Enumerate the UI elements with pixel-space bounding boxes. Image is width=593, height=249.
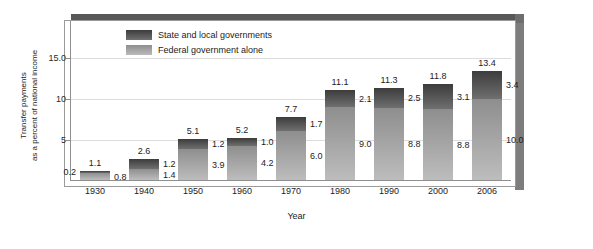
x-tick-label-1970: 1970 [268, 186, 314, 196]
y-tick-label-10: 10 [56, 95, 66, 104]
bar-federal-label-2006: 10.0 [506, 136, 524, 145]
bar-state-label-1930: 0.2 [56, 168, 76, 177]
bar-segment-federal-1990 [374, 108, 404, 180]
bar-state-label-1950: 1.2 [212, 140, 225, 149]
legend-item-federal: Federal government alone [126, 43, 272, 56]
x-tick-label-2000: 2000 [415, 186, 461, 196]
bar-2000 [423, 84, 453, 180]
bar-federal-label-1940: 1.4 [163, 171, 176, 180]
x-axis-title: Year [0, 211, 593, 221]
bar-federal-label-1960: 4.2 [261, 159, 274, 168]
y-tick-mark-5 [66, 140, 70, 141]
bar-segment-federal-1970 [276, 131, 306, 180]
chart-figure: 15.0 10 5 Transfer payments as a percent… [0, 0, 593, 249]
y-tick-mark-10 [66, 99, 70, 100]
bar-total-label-1980: 11.1 [325, 78, 355, 87]
bar-state-label-2000: 3.1 [457, 93, 470, 102]
x-tick-label-1930: 1930 [72, 186, 118, 196]
bar-segment-federal-2006 [472, 99, 502, 180]
y-tick-label-5: 5 [61, 136, 66, 145]
bar-1990 [374, 88, 404, 180]
bar-segment-state-1960 [227, 138, 257, 146]
bar-1960 [227, 138, 257, 180]
bar-1980 [325, 90, 355, 180]
x-tick-label-1950: 1950 [170, 186, 216, 196]
bar-state-label-1960: 1.0 [261, 138, 274, 147]
y-tick-label-15: 15.0 [48, 54, 66, 63]
bar-segment-state-1940 [129, 159, 159, 169]
y-axis-title-line2: as a percent of national income [29, 31, 40, 181]
bar-1940 [129, 159, 159, 180]
legend-swatch-federal-icon [126, 45, 152, 55]
bar-1950 [178, 139, 208, 180]
x-tick-label-1940: 1940 [121, 186, 167, 196]
y-axis-line [70, 21, 71, 181]
bar-segment-federal-1930 [80, 173, 110, 180]
bar-total-label-2006: 13.4 [472, 59, 502, 68]
bar-federal-label-2000: 8.8 [457, 141, 470, 150]
y-axis-title-line1: Transfer payments [18, 31, 29, 181]
bar-2006 [472, 71, 502, 180]
legend-item-state-and-local: State and local governments [126, 28, 272, 41]
frame-shadow-right-inner [515, 23, 524, 190]
bar-state-label-1940: 1.2 [163, 160, 176, 169]
bar-state-label-1980: 2.1 [359, 95, 372, 104]
bar-total-label-1970: 7.7 [276, 105, 306, 114]
bar-federal-label-1930: 0.8 [114, 173, 127, 182]
chart-legend: State and local governments Federal gove… [126, 28, 272, 58]
bar-1930 [80, 171, 110, 180]
x-axis-line [70, 180, 511, 181]
bar-state-label-2006: 3.4 [506, 81, 519, 90]
bar-segment-state-1970 [276, 117, 306, 131]
bar-segment-state-2006 [472, 71, 502, 99]
bar-segment-state-2000 [423, 84, 453, 109]
bar-segment-federal-1960 [227, 146, 257, 180]
bar-segment-state-1950 [178, 139, 208, 149]
y-tick-mark-15 [66, 58, 70, 59]
x-tick-label-2006: 2006 [464, 186, 510, 196]
x-tick-label-1960: 1960 [219, 186, 265, 196]
legend-label-federal: Federal government alone [158, 45, 263, 55]
bar-total-label-1950: 5.1 [178, 127, 208, 136]
bar-segment-federal-1950 [178, 149, 208, 180]
bar-federal-label-1990: 8.8 [408, 140, 421, 149]
bar-federal-label-1950: 3.9 [212, 161, 225, 170]
bar-state-label-1970: 1.7 [310, 120, 323, 129]
bar-state-label-1990: 2.5 [408, 94, 421, 103]
gridline-15 [71, 58, 511, 59]
bar-segment-federal-1940 [129, 169, 159, 180]
legend-swatch-state-icon [126, 30, 152, 40]
legend-label-state-and-local: State and local governments [158, 30, 272, 40]
bar-segment-state-1980 [325, 90, 355, 107]
bar-segment-federal-1980 [325, 107, 355, 180]
bar-total-label-1990: 11.3 [374, 76, 404, 85]
x-tick-label-1980: 1980 [317, 186, 363, 196]
bar-total-label-2000: 11.8 [423, 72, 453, 81]
bar-segment-state-1990 [374, 88, 404, 108]
bar-1970 [276, 117, 306, 180]
bar-federal-label-1970: 6.0 [310, 152, 323, 161]
bar-total-label-1930: 1.1 [80, 159, 110, 168]
bar-total-label-1940: 2.6 [129, 147, 159, 156]
bar-total-label-1960: 5.2 [227, 126, 257, 135]
bar-segment-federal-2000 [423, 109, 453, 180]
bar-federal-label-1980: 9.0 [359, 140, 372, 149]
x-tick-label-1990: 1990 [366, 186, 412, 196]
